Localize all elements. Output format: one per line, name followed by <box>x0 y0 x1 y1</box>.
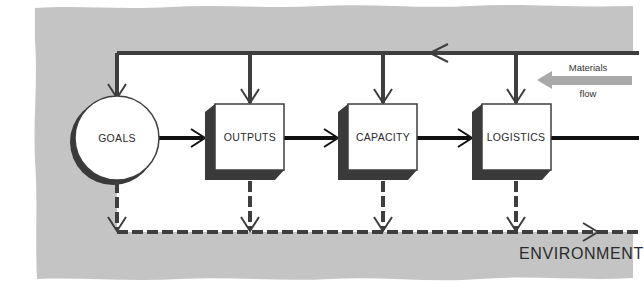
flow-label: flow <box>580 88 597 99</box>
materials-label: Materials <box>569 62 608 73</box>
environment-label: ENVIRONMENT <box>519 245 644 263</box>
logistics-label: LOGISTICS <box>487 131 546 143</box>
capacity-label: CAPACITY <box>356 131 410 143</box>
goals-label: GOALS <box>98 132 136 144</box>
outputs-label: OUTPUTS <box>224 131 276 143</box>
